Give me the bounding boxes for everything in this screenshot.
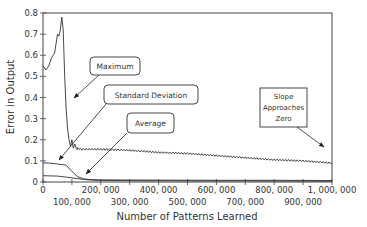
callout-slope-line2: Approaches bbox=[263, 104, 305, 112]
y-tick-label: 0.5 bbox=[24, 71, 38, 81]
y-tick-label: 0.3 bbox=[24, 114, 38, 124]
y-axis-label: Error in Output bbox=[5, 60, 16, 135]
callout-slope-approaches-zero: Slope Approaches Zero bbox=[260, 88, 324, 147]
x-axis: 0100, 000200, 000300, 000400, 000500, 00… bbox=[40, 179, 356, 207]
chart: 00.10.20.30.40.50.60.70.8 0100, 000200, … bbox=[0, 0, 367, 227]
arrow-icon bbox=[86, 133, 127, 174]
y-tick-label: 0.7 bbox=[24, 29, 38, 39]
y-tick-label: 0.4 bbox=[24, 93, 38, 103]
arrow-icon bbox=[74, 75, 99, 98]
y-tick-label: 0.2 bbox=[24, 135, 38, 145]
x-tick-label: 200, 000 bbox=[82, 185, 120, 195]
x-tick-label: 500, 000 bbox=[169, 197, 207, 207]
x-tick-label: 900, 000 bbox=[284, 197, 322, 207]
callout-slope-line3: Zero bbox=[275, 115, 291, 123]
x-tick-label: 800, 000 bbox=[255, 185, 293, 195]
y-tick-label: 0.8 bbox=[24, 8, 38, 18]
callout-average: Average bbox=[86, 113, 174, 174]
callout-slope-line1: Slope bbox=[274, 93, 293, 101]
x-tick-label: 300, 000 bbox=[111, 197, 149, 207]
callout-average-label: Average bbox=[135, 119, 166, 128]
x-tick-label: 100, 000 bbox=[53, 197, 91, 207]
x-tick-label: 400, 000 bbox=[140, 185, 178, 195]
x-tick-label: 1, 000, 000 bbox=[308, 185, 357, 195]
x-tick-label: 600, 000 bbox=[197, 185, 235, 195]
callout-maximum-label: Maximum bbox=[97, 62, 134, 71]
y-tick-label: 0.1 bbox=[24, 156, 38, 166]
series-standard-deviation bbox=[43, 163, 332, 181]
y-tick-label: 0.6 bbox=[24, 50, 38, 60]
callout-stddev-label: Standard Deviation bbox=[115, 91, 188, 100]
x-tick-label: 700, 000 bbox=[226, 197, 264, 207]
x-tick-label: 0 bbox=[40, 185, 45, 195]
x-axis-label: Number of Patterns Learned bbox=[117, 211, 258, 222]
arrow-icon bbox=[297, 127, 324, 147]
y-tick-label: 0 bbox=[33, 177, 38, 187]
